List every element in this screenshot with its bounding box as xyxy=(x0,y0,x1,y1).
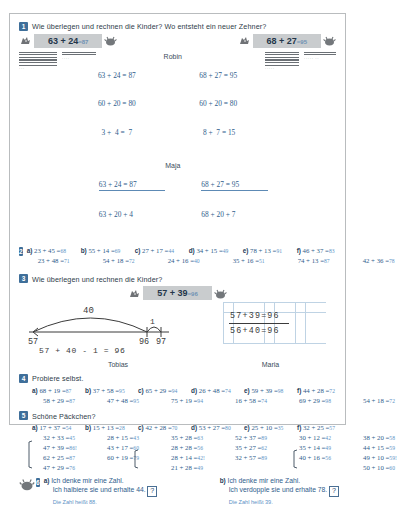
tick-label-start: 57 xyxy=(28,337,38,347)
task-1-title: Wie überlegen und rechnen die Kinder? Wo… xyxy=(32,22,266,31)
task-5-number: 5 xyxy=(19,411,28,420)
banner-left-result: =87 xyxy=(78,39,88,45)
task-5-cell: 40 + 16 =56 xyxy=(288,453,352,463)
answer-box[interactable]: ? xyxy=(329,486,339,497)
task-4-col: 47 + 48 =95 xyxy=(96,396,160,406)
task-5-cell: 49 + 10 =59! xyxy=(352,453,401,463)
arc-label-40: 40 xyxy=(83,306,94,316)
task-5-cell: 35 + 28 =63 xyxy=(160,433,224,443)
task-4-col: 58 + 29 =87 xyxy=(32,396,96,406)
mouse-icon xyxy=(19,34,32,47)
tick-label-end: 97 xyxy=(156,337,166,347)
banner-task-3-result: =96 xyxy=(188,291,198,297)
child-name-robin: Robin xyxy=(164,52,200,60)
task-1-maja-row: 63 + 24 = 87 63 + 20 + 4 Maja 68 + 27 = … xyxy=(19,161,336,239)
task-2-col: 42 + 36 =78 xyxy=(352,256,401,266)
banner-right: 68 + 27=95 xyxy=(238,34,336,48)
task-5-cell: 44 + 15 =59 xyxy=(352,443,401,453)
task-4-col: 75 + 19 =94 xyxy=(160,396,224,406)
task-4-col: b) 37 + 58 =95 xyxy=(85,386,138,396)
place-value-strips-left: ··· ···· xyxy=(19,52,98,72)
task-5-row-5: 47 + 29 =76 21 + 28 =49 50 + 10 =60 xyxy=(32,463,336,473)
task-2-col: d) 34 + 15 =49 xyxy=(189,246,243,256)
task-5-cell: 50 + 10 =60 xyxy=(352,463,401,473)
task-5-row-1: a) 17 + 37 =54 b) 15 + 13 =28 c) 42 + 28… xyxy=(32,423,336,433)
task-5-cell: 62 + 25 =87 xyxy=(32,453,96,463)
maria-line-2: 56+40=96 xyxy=(230,326,280,336)
task-5-cell: 32 + 57 =89 xyxy=(224,453,288,463)
task-5-cell: f) 32 + 25 =57 xyxy=(297,423,350,433)
mole-icon xyxy=(19,477,35,493)
task-5-cell xyxy=(224,463,288,473)
banner-task-3: 57 + 39=96 xyxy=(128,286,226,300)
maja-calc-right: 68 + 27 = 95 68 + 20 + 7 xyxy=(201,161,267,239)
mole-icon xyxy=(323,34,336,47)
task-5-cell: a) 17 + 37 =54 xyxy=(32,423,85,433)
task-2: 2 a) 23 + 45 =68 b) 55 + 14 =69 c) 27 + … xyxy=(19,246,336,266)
task-5-cell: c) 42 + 28 =70 xyxy=(138,423,191,433)
task-5-cell: d) 53 + 27 =80 xyxy=(191,423,244,433)
task-2-row-bottom: 23 + 48 =71 54 + 18 =72 24 + 16 =40 35 +… xyxy=(27,256,401,266)
task-2-col: 74 + 13 =87 xyxy=(287,256,352,266)
task-2-col: 23 + 48 =71 xyxy=(27,256,92,266)
task-4: 4Probiere selbst. a) 68 + 19 =87 b) 37 +… xyxy=(19,373,336,406)
answer-box[interactable]: ? xyxy=(147,486,157,497)
task-5-cell: 38 + 20 =58 xyxy=(352,433,401,443)
mouse-icon xyxy=(128,287,141,300)
task-5-cell: 43 + 17 =60 xyxy=(96,443,160,453)
task-4-row-bottom: 58 + 29 =87 47 + 48 =95 75 + 19 =94 16 +… xyxy=(32,396,336,406)
task-5-row-4: 62 + 25 =87 60 + 19 =79 28 + 14 =42! 32 … xyxy=(32,453,336,463)
mouse-icon xyxy=(238,34,251,47)
child-name-tobias: Tobias xyxy=(25,361,211,368)
task-1-robin-row: ··· ···· 63 + 24 = 87 60 + 20 = 80 3 + 4… xyxy=(19,52,336,157)
task-5-cell: e) 25 + 10 =35 xyxy=(244,423,297,433)
task-1-number: 1 xyxy=(19,22,28,31)
task-4-col: d) 26 + 48 =74 xyxy=(191,386,244,396)
task-5-cell: 30 + 12 =42 xyxy=(288,433,352,443)
task-4-col: 69 + 29 =98 xyxy=(288,396,352,406)
task-4-col: c) 65 + 29 =94 xyxy=(138,386,191,396)
task-6-b-line2: Ich verdopple sie und erhalte 78. ? xyxy=(220,486,388,497)
robin-calc-right: 68 + 27 = 95 60 + 20 = 80 8 + 7 = 15 xyxy=(199,52,265,157)
child-name-maria: Maria xyxy=(211,361,330,368)
task-5-row-3: 47 + 39 =86! 43 + 17 =60 28 + 28 =56 35 … xyxy=(32,443,336,453)
task-3-title: Wie überlegen und rechnen die Kinder? xyxy=(32,274,162,283)
maja-calc-left: 63 + 24 = 87 63 + 20 + 4 xyxy=(99,161,165,239)
mole-icon xyxy=(214,287,227,300)
task-5-cell: 47 + 29 =76 xyxy=(32,463,96,473)
task-1-header: 1Wie überlegen und rechnen die Kinder? W… xyxy=(19,21,336,31)
task-3-number: 3 xyxy=(19,274,28,283)
task-6-a-line1: a) Ich denke mir eine Zahl. xyxy=(44,477,212,484)
task-2-col: b) 55 + 14 =69 xyxy=(81,246,135,256)
task-2-col: e) 78 + 13 =91 xyxy=(243,246,297,256)
worksheet-page: 1Wie überlegen und rechnen die Kinder? W… xyxy=(9,13,346,425)
task-5-cell: 28 + 28 =56 xyxy=(160,443,224,453)
task-2-col: c) 27 + 17 =44 xyxy=(135,246,189,256)
task-2-col: a) 23 + 45 =68 xyxy=(27,246,81,256)
task-5-header: 5Schöne Päckchen? xyxy=(19,411,336,421)
task-4-col: e) 59 + 39 =98 xyxy=(244,386,297,396)
tobias-equation: 57 + 40 - 1 = 96 xyxy=(39,346,125,355)
task-5-cell: 28 + 14 =42! xyxy=(160,453,224,463)
banner-task-3-term: 57 + 39=96 xyxy=(143,286,211,300)
task-5-cell: 35 + 14 =49 xyxy=(288,443,352,453)
task-4-row-top: a) 68 + 19 =87 b) 37 + 58 =95 c) 65 + 29… xyxy=(32,386,336,396)
task-6-a-solution: Die Zahl heißt 88. xyxy=(44,499,212,505)
task-5-cell: 32 + 33 =45 xyxy=(32,433,96,443)
task-6: 6 a) Ich denke mir eine Zahl. Ich halbie… xyxy=(19,477,336,505)
task-1-banners: 63 + 24=87 68 + 27=95 xyxy=(19,34,336,48)
task-4-col: 54 + 18 =72 xyxy=(352,396,401,406)
task-6-b-solution: Die Zahl heißt 39. xyxy=(220,499,388,505)
task-1: 1Wie überlegen und rechnen die Kinder? W… xyxy=(19,21,336,239)
task-2-col: 35 + 16 =51 xyxy=(222,256,287,266)
task-2-number: 2 xyxy=(19,247,23,256)
task-5-cell: 28 + 15 =43 xyxy=(96,433,160,443)
task-4-title: Probiere selbst. xyxy=(32,374,84,383)
task-5: 5Schöne Päckchen? a) 17 + 37 =54 b) 15 +… xyxy=(19,411,336,474)
task-2-col: 54 + 18 =72 xyxy=(92,256,157,266)
banner-right-result: =95 xyxy=(297,39,307,45)
task-4-header: 4Probiere selbst. xyxy=(19,373,336,383)
child-name-maja: Maja xyxy=(165,161,201,169)
task-5-cell: 21 + 28 =49 xyxy=(160,463,224,473)
task-6-a-line2: Ich halbiere sie und erhalte 44. ? xyxy=(44,486,212,497)
